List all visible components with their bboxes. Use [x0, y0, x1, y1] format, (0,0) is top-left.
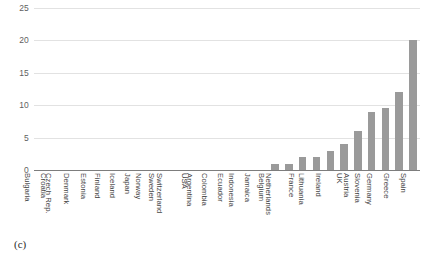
- bar-slot[interactable]: [255, 0, 269, 170]
- bar[interactable]: [395, 92, 402, 170]
- bar[interactable]: [327, 151, 334, 170]
- x-tick-label: Norway: [135, 173, 143, 199]
- x-tick-label: Austria: [342, 173, 350, 197]
- figure-caption: (c): [14, 238, 26, 250]
- bar-slot[interactable]: [213, 0, 227, 170]
- bar-slot[interactable]: [158, 0, 172, 170]
- plot-area: [34, 0, 420, 170]
- y-tick-label: 20: [19, 36, 29, 45]
- bar-slot[interactable]: [379, 0, 393, 170]
- bar-slot[interactable]: [117, 0, 131, 170]
- bar-slot[interactable]: [351, 0, 365, 170]
- bar-slot[interactable]: [199, 0, 213, 170]
- bar[interactable]: [285, 164, 292, 170]
- x-tick-label: Switzerland: [155, 173, 163, 213]
- bar[interactable]: [354, 131, 361, 170]
- y-tick-label: 10: [19, 101, 29, 110]
- bar-slot[interactable]: [365, 0, 379, 170]
- bar-slot[interactable]: [62, 0, 76, 170]
- bar-slot[interactable]: [103, 0, 117, 170]
- x-tick-label: Slovenia: [353, 173, 361, 203]
- x-tick-label: Greece: [383, 173, 391, 199]
- x-tick-label: Denmark: [63, 173, 71, 205]
- x-tick-label: Iceland: [108, 173, 116, 198]
- bar-slot[interactable]: [392, 0, 406, 170]
- bar-slot[interactable]: [406, 0, 420, 170]
- y-axis-tick-labels: 0510152025: [0, 0, 34, 178]
- bar[interactable]: [409, 40, 416, 170]
- x-tick-label: Ireland: [315, 173, 323, 197]
- x-tick-label: Argentina: [186, 173, 194, 206]
- x-tick-label: Japan: [123, 173, 131, 194]
- bar-chart: 0510152025 BulgariaCroatiaCzech Rep.Denm…: [0, 0, 439, 178]
- x-tick-label: Germany: [366, 173, 374, 205]
- bar-slot[interactable]: [89, 0, 103, 170]
- x-tick-label: Netherlands: [265, 173, 273, 215]
- x-tick-label: Finland: [94, 173, 102, 199]
- bar-slot[interactable]: [75, 0, 89, 170]
- x-tick-label: Czech Rep.: [45, 173, 53, 214]
- bar-slot[interactable]: [186, 0, 200, 170]
- bar-slot[interactable]: [337, 0, 351, 170]
- bar-slot[interactable]: [310, 0, 324, 170]
- bar-slot[interactable]: [268, 0, 282, 170]
- bar-slot[interactable]: [144, 0, 158, 170]
- y-tick-label: 15: [19, 69, 29, 78]
- x-tick-label: Estonia: [80, 173, 88, 199]
- bar[interactable]: [299, 157, 306, 170]
- y-tick-label: 25: [19, 4, 29, 13]
- bar-slot[interactable]: [296, 0, 310, 170]
- x-tick-label: France: [287, 173, 295, 197]
- x-tick-label: Indonesia: [227, 173, 235, 207]
- x-axis-line: [34, 170, 420, 171]
- x-tick-label: Sweden: [148, 173, 156, 201]
- x-axis-category-labels: BulgariaCroatiaCzech Rep.DenmarkEstoniaF…: [34, 172, 420, 238]
- x-tick-label: Spain: [400, 173, 408, 193]
- x-tick-label: Bulgaria: [23, 173, 31, 202]
- x-tick-label: Jamaica: [244, 173, 252, 202]
- bar[interactable]: [382, 108, 389, 170]
- bar-slot[interactable]: [48, 0, 62, 170]
- figure-panel: 0510152025 BulgariaCroatiaCzech Rep.Denm…: [0, 0, 439, 260]
- bar[interactable]: [340, 144, 347, 170]
- bar-slot[interactable]: [172, 0, 186, 170]
- bar[interactable]: [271, 164, 278, 170]
- bar-slot[interactable]: [130, 0, 144, 170]
- x-tick-label: Lithuania: [297, 173, 305, 205]
- bar-slot[interactable]: [34, 0, 48, 170]
- bar[interactable]: [313, 157, 320, 170]
- bar-slot[interactable]: [227, 0, 241, 170]
- bar-slot[interactable]: [282, 0, 296, 170]
- x-label-slot: Spain: [406, 172, 420, 238]
- bar-series: [34, 0, 420, 170]
- x-tick-label: Colombia: [200, 173, 208, 206]
- y-tick-label: 5: [24, 133, 29, 142]
- bar[interactable]: [368, 112, 375, 170]
- bar-slot[interactable]: [323, 0, 337, 170]
- bar-slot[interactable]: [241, 0, 255, 170]
- x-tick-label: Ecuador: [216, 173, 224, 202]
